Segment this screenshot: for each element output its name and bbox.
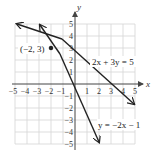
y-axis-label: y: [76, 2, 81, 12]
svg-text:1: 1: [85, 87, 89, 96]
svg-text:5: 5: [69, 20, 73, 29]
svg-text:2: 2: [97, 87, 101, 96]
svg-text:5: 5: [133, 87, 137, 96]
equation-label-2: y = −2x − 1: [98, 120, 140, 130]
svg-text:−5: −5: [64, 140, 73, 149]
svg-text:4: 4: [69, 32, 73, 41]
line-2x-plus-3y-eq-5: [17, 24, 62, 39]
svg-text:−2: −2: [64, 104, 73, 113]
svg-text:−4: −4: [21, 87, 30, 96]
svg-text:−1: −1: [64, 92, 73, 101]
svg-text:−3: −3: [64, 116, 73, 125]
intersection-label: (−2, 3): [20, 44, 45, 54]
intersection-point: [49, 46, 53, 50]
coordinate-plane: x y −5 −4 −3 −2 −1 1 2 3 4 5 5 4 3 2 1 −…: [0, 0, 160, 153]
equation-label-1: 2x + 3y = 5: [92, 57, 134, 67]
svg-text:−3: −3: [33, 87, 42, 96]
svg-text:−4: −4: [64, 128, 73, 137]
x-axis-label: x: [145, 79, 150, 89]
svg-text:−2: −2: [45, 87, 54, 96]
svg-text:−5: −5: [9, 87, 18, 96]
svg-text:2: 2: [69, 56, 73, 65]
svg-text:3: 3: [109, 87, 113, 96]
